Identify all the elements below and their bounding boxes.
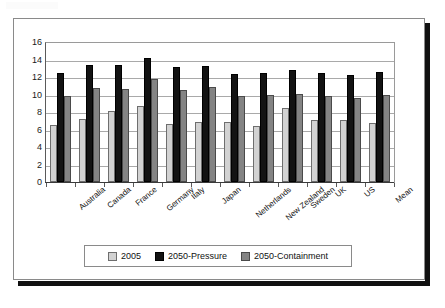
bar-2050-containment xyxy=(180,90,187,182)
bar-2050-pressure xyxy=(173,67,180,182)
bar-group xyxy=(75,42,104,182)
bar-groups xyxy=(46,42,394,182)
card-shadow-bottom xyxy=(18,281,430,286)
bar-group xyxy=(46,42,75,182)
bar-2005 xyxy=(137,106,144,182)
card-shadow-right xyxy=(425,23,430,286)
x-axis-tick-mark xyxy=(394,183,395,187)
bar-2050-containment xyxy=(296,94,303,182)
y-axis-tick-label: 0 xyxy=(18,178,42,187)
bar-2050-containment xyxy=(209,87,216,182)
y-axis-tick-label: 14 xyxy=(18,56,42,65)
bar-2050-containment xyxy=(64,96,71,182)
bar-group xyxy=(133,42,162,182)
bar-group xyxy=(336,42,365,182)
bar-2005 xyxy=(311,120,318,182)
bar-group xyxy=(249,42,278,182)
bar-2005 xyxy=(166,124,173,182)
x-axis-category-label: Japan xyxy=(220,185,242,206)
bar-2050-containment xyxy=(354,98,361,182)
bar-2050-pressure xyxy=(86,65,93,182)
legend-item-label: 2050-Containment xyxy=(254,252,328,261)
x-axis-category-label: Mean xyxy=(393,185,414,205)
bar-2005 xyxy=(108,111,115,182)
legend-item: 2050-Pressure xyxy=(155,252,227,261)
black-swatch-icon xyxy=(155,252,164,261)
bar-2050-pressure xyxy=(115,65,122,182)
x-axis-category-label: Canada xyxy=(105,185,132,210)
light-gray-swatch-icon xyxy=(108,252,117,261)
bar-2050-containment xyxy=(93,88,100,182)
x-axis-category-label: UK xyxy=(333,185,347,199)
x-axis-category-labels: AustraliaCanadaFranceGermanyItalyJapanNe… xyxy=(46,185,394,237)
bar-2050-containment xyxy=(122,89,129,182)
bar-2050-containment xyxy=(151,79,158,182)
y-axis-tick-label: 16 xyxy=(18,38,42,47)
bar-group xyxy=(220,42,249,182)
bar-2005 xyxy=(282,108,289,182)
chart-card: 1614121086420 AustraliaCanadaFranceGerma… xyxy=(13,18,425,280)
bar-2050-pressure xyxy=(260,73,267,182)
y-axis-tick-label: 8 xyxy=(18,108,42,117)
bar-group xyxy=(162,42,191,182)
bar-2050-pressure xyxy=(318,73,325,182)
bar-2050-containment xyxy=(383,95,390,182)
chart-figure: 1614121086420 AustraliaCanadaFranceGerma… xyxy=(14,19,424,279)
x-axis-category-label: France xyxy=(134,185,159,208)
page-top-artifact xyxy=(6,2,58,9)
bar-2050-pressure xyxy=(289,70,296,182)
y-axis-tick-label: 10 xyxy=(18,91,42,100)
bar-2005 xyxy=(224,122,231,182)
y-axis-tick-labels: 1614121086420 xyxy=(14,42,42,182)
medium-gray-swatch-icon xyxy=(241,252,250,261)
bar-2050-pressure xyxy=(144,58,151,182)
bar-2005 xyxy=(79,119,86,182)
bar-2050-pressure xyxy=(57,73,64,182)
y-axis-tick-label: 12 xyxy=(18,73,42,82)
x-axis-category-label: Germany xyxy=(164,185,195,213)
bar-group xyxy=(365,42,394,182)
chart-legend: 2005 2050-Pressure 2050-Containment xyxy=(84,245,352,267)
legend-item-label: 2005 xyxy=(121,252,141,261)
bar-group xyxy=(104,42,133,182)
bar-2050-containment xyxy=(325,96,332,182)
x-axis-category-label: US xyxy=(362,185,376,199)
y-axis-tick-label: 4 xyxy=(18,143,42,152)
bar-2050-pressure xyxy=(231,74,238,182)
bar-2050-pressure xyxy=(376,72,383,182)
bar-2050-containment xyxy=(267,95,274,182)
legend-item: 2005 xyxy=(108,252,141,261)
bar-2050-pressure xyxy=(202,66,209,182)
legend-item: 2050-Containment xyxy=(241,252,328,261)
bar-2050-containment xyxy=(238,96,245,182)
bar-2005 xyxy=(195,122,202,182)
bar-2005 xyxy=(253,126,260,182)
bar-group xyxy=(278,42,307,182)
bar-group xyxy=(191,42,220,182)
bar-2005 xyxy=(340,120,347,182)
bar-group xyxy=(307,42,336,182)
legend-item-label: 2050-Pressure xyxy=(168,252,227,261)
x-axis-category-label: Australia xyxy=(77,185,107,212)
y-axis-tick-label: 6 xyxy=(18,126,42,135)
bar-2050-pressure xyxy=(347,75,354,182)
bar-2005 xyxy=(369,123,376,182)
bar-2005 xyxy=(50,125,57,182)
y-axis-tick-label: 2 xyxy=(18,161,42,170)
